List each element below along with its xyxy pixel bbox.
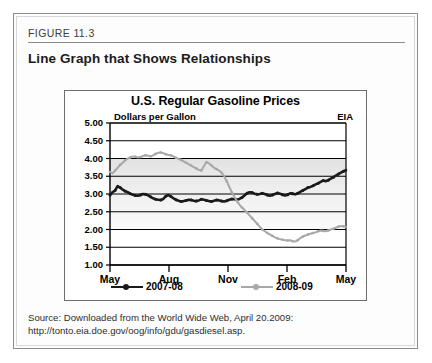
series-marker [296, 239, 299, 242]
series-marker [134, 155, 137, 158]
legend-label: 2008-09 [276, 281, 313, 292]
series-marker [154, 153, 157, 156]
series-marker [296, 192, 299, 195]
series-marker [342, 225, 345, 228]
series-marker [154, 198, 157, 201]
series-marker [266, 232, 269, 235]
series-marker [312, 232, 315, 235]
y-axis-tick-label: 5.00 [69, 117, 103, 128]
series-marker [114, 169, 117, 172]
series-marker [170, 154, 173, 157]
series-marker [261, 228, 264, 231]
series-marker [332, 176, 335, 179]
series-marker [159, 199, 162, 202]
series-marker [215, 199, 218, 202]
source-note-line-1: Source: Downloaded from the World Wide W… [28, 311, 388, 324]
series-marker [200, 198, 203, 201]
series-marker [291, 240, 294, 243]
series-marker [225, 199, 228, 202]
series-marker [266, 194, 269, 197]
series-marker [210, 200, 213, 203]
series-marker [337, 225, 340, 228]
legend-marker-icon [253, 284, 259, 290]
series-marker [240, 196, 243, 199]
series-marker [230, 197, 233, 200]
series-marker [291, 192, 294, 195]
y-axis-tick-label: 2.50 [69, 206, 103, 217]
source-note: Source: Downloaded from the World Wide W… [28, 311, 388, 337]
series-marker [306, 186, 309, 189]
x-axis-ticks [110, 265, 346, 272]
series-marker [139, 156, 142, 159]
series-marker [134, 194, 137, 197]
series-marker [236, 200, 239, 203]
series-marker [144, 193, 147, 196]
series-marker [246, 192, 249, 195]
series-marker [119, 186, 122, 189]
y-axis-tick-label: 3.00 [69, 188, 103, 199]
series-marker [114, 189, 117, 192]
legend-label: 2007-08 [146, 281, 183, 292]
series-marker [256, 223, 259, 226]
series-marker [337, 173, 340, 176]
figure-header-divider [28, 42, 405, 43]
chart-legend: 2007-08 2008-09 [65, 281, 366, 295]
series-marker [281, 239, 284, 242]
y-axis-tick-label: 4.00 [69, 153, 103, 164]
series-marker [246, 211, 249, 214]
series-marker [144, 154, 147, 157]
series-marker [342, 170, 345, 173]
series-marker [302, 235, 305, 238]
legend-entry-2008-09: 2008-09 [241, 281, 313, 292]
series-marker [180, 159, 183, 162]
series-marker [195, 200, 198, 203]
series-marker [175, 156, 178, 159]
series-marker [327, 179, 330, 182]
series-marker [276, 191, 279, 194]
series-marker [261, 192, 264, 195]
series-marker [119, 164, 122, 167]
figure-title: Line Graph that Shows Relationships [28, 51, 271, 66]
series-marker [327, 229, 330, 232]
series-marker [185, 199, 188, 202]
line-chart-svg [65, 91, 368, 302]
series-marker [215, 168, 218, 171]
series-marker [256, 193, 259, 196]
series-marker [271, 194, 274, 197]
y-axis-tick-label: 4.50 [69, 135, 103, 146]
plot-area [65, 91, 368, 302]
series-marker [251, 217, 254, 220]
series-marker [271, 235, 274, 238]
y-axis-tick-label: 2.00 [69, 224, 103, 235]
series-marker [195, 167, 198, 170]
series-marker [124, 190, 127, 193]
series-marker [165, 153, 168, 156]
series-marker [149, 195, 152, 198]
series-marker [317, 182, 320, 185]
legend-entry-2007-08: 2007-08 [111, 281, 183, 292]
series-marker [149, 155, 152, 158]
series-marker [307, 233, 310, 236]
series-marker [190, 164, 193, 167]
series-marker [225, 180, 228, 183]
series-marker [322, 230, 325, 233]
series-marker [317, 230, 320, 233]
series-marker [220, 200, 223, 203]
series-marker [180, 200, 183, 203]
y-axis-tick-label: 1.00 [69, 259, 103, 270]
series-marker [251, 191, 254, 194]
series-marker [286, 239, 289, 242]
series-marker [231, 191, 234, 194]
series-marker [210, 164, 213, 167]
series-marker [159, 151, 162, 154]
series-marker [129, 192, 132, 195]
series-marker [301, 189, 304, 192]
series-marker [281, 193, 284, 196]
series-marker [190, 199, 193, 202]
chart-panel: U.S. Regular Gasoline Prices Dollars per… [64, 90, 367, 301]
legend-swatch-icon [111, 283, 143, 291]
series-marker [109, 194, 112, 197]
legend-swatch-icon [241, 283, 273, 291]
series-marker [169, 195, 172, 198]
y-axis-tick-label: 3.50 [69, 170, 103, 181]
